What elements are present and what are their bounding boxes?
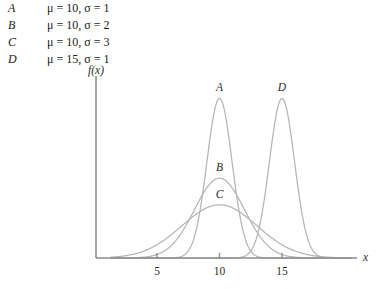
x-tick-label-5: 5: [154, 265, 160, 277]
legend-row: B μ = 10, σ = 2: [0, 17, 200, 34]
curve-a: [111, 98, 351, 258]
curve-label-c: C: [216, 188, 224, 200]
labels-group: f(x)xABCD: [88, 64, 369, 263]
curve-c: [111, 205, 351, 258]
legend-row: A μ = 10, σ = 1: [0, 0, 200, 17]
curves-group: [111, 98, 351, 258]
x-tick-label-15: 15: [276, 265, 288, 277]
plot-svg: 51015 f(x)xABCD: [0, 62, 387, 289]
figure-normal-distributions: A μ = 10, σ = 1 B μ = 10, σ = 2 C μ = 10…: [0, 0, 387, 289]
y-axis-label: f(x): [88, 64, 104, 77]
curve-label-b: B: [216, 161, 223, 173]
ticks-group: 51015: [154, 253, 288, 277]
curve-label-a: A: [215, 81, 224, 93]
legend-row: C μ = 10, σ = 3: [0, 34, 200, 51]
axes-group: [96, 76, 357, 258]
curve-d: [111, 98, 351, 258]
legend-params-a: μ = 10, σ = 1: [47, 0, 109, 17]
x-tick-label-10: 10: [214, 265, 226, 277]
curve-label-d: D: [277, 81, 287, 93]
normal-distribution-plot: 51015 f(x)xABCD: [0, 62, 387, 289]
parameter-legend: A μ = 10, σ = 1 B μ = 10, σ = 2 C μ = 10…: [0, 0, 200, 68]
x-axis-label: x: [362, 251, 369, 263]
curve-b: [111, 178, 351, 258]
legend-params-b: μ = 10, σ = 2: [47, 17, 109, 34]
legend-key-a: A: [8, 0, 15, 17]
legend-key-c: C: [8, 34, 16, 51]
legend-params-c: μ = 10, σ = 3: [47, 34, 109, 51]
legend-key-b: B: [8, 17, 15, 34]
